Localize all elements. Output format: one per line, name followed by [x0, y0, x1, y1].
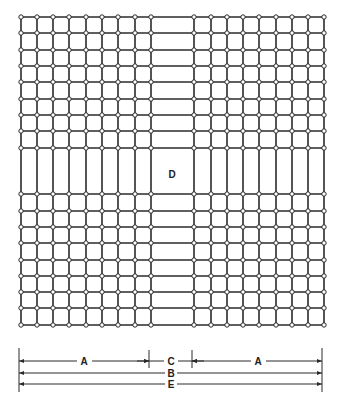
grid-node — [84, 192, 88, 196]
grid-node — [241, 306, 245, 310]
grid-node — [100, 97, 104, 101]
grid-node — [19, 48, 23, 52]
grid-node — [19, 306, 23, 310]
grid-node — [116, 129, 120, 133]
grid-node — [84, 64, 88, 68]
grid-node — [257, 258, 261, 262]
grid-node — [192, 225, 196, 229]
grid-node — [306, 146, 310, 150]
grid-node — [133, 113, 137, 117]
grid-node — [35, 225, 39, 229]
grid-node — [149, 258, 153, 262]
grid-node — [67, 290, 71, 294]
grid-node — [290, 129, 294, 133]
grid-node — [149, 80, 153, 84]
dim-label-b: B — [167, 368, 174, 379]
grid-node — [290, 97, 294, 101]
grid-node — [133, 241, 137, 245]
grid-node — [67, 192, 71, 196]
grid-node — [192, 48, 196, 52]
dim-label-e: E — [168, 379, 175, 390]
grid-node — [192, 80, 196, 84]
grid-node — [192, 241, 196, 245]
grid-node — [274, 225, 278, 229]
grid-node — [149, 129, 153, 133]
grid-node — [241, 31, 245, 35]
grid-node — [306, 290, 310, 294]
grid-node — [322, 31, 326, 35]
grid-node — [209, 323, 213, 327]
grid-node — [35, 31, 39, 35]
grid-node — [149, 113, 153, 117]
grid-node — [84, 15, 88, 19]
grid-node — [100, 31, 104, 35]
grid-node — [100, 258, 104, 262]
grid-node — [225, 146, 229, 150]
grid-node — [225, 290, 229, 294]
grid-node — [322, 290, 326, 294]
grid-node — [19, 31, 23, 35]
grid-node — [209, 209, 213, 213]
grid-node — [19, 192, 23, 196]
grid-node — [51, 146, 55, 150]
grid-node — [225, 129, 229, 133]
grid-node — [274, 48, 278, 52]
grid-node — [192, 97, 196, 101]
grid-node — [67, 323, 71, 327]
grid-node — [257, 209, 261, 213]
grid-node — [100, 15, 104, 19]
grid-node — [274, 241, 278, 245]
grid-node — [19, 146, 23, 150]
grid-node — [35, 323, 39, 327]
grid-node — [306, 64, 310, 68]
grid-node — [51, 15, 55, 19]
grid-node — [209, 97, 213, 101]
grid-node — [290, 31, 294, 35]
grid-node — [209, 290, 213, 294]
grid-node — [35, 15, 39, 19]
grid-node — [67, 258, 71, 262]
grid-node — [116, 209, 120, 213]
grid-node — [19, 241, 23, 245]
grid-node — [35, 192, 39, 196]
grid-node — [35, 306, 39, 310]
grid-node — [306, 192, 310, 196]
grid-node — [35, 48, 39, 52]
grid-node — [322, 113, 326, 117]
grid-node — [306, 80, 310, 84]
grid-node — [51, 306, 55, 310]
grid-node — [67, 113, 71, 117]
grid-node — [290, 192, 294, 196]
grid-node — [149, 209, 153, 213]
grid-node — [306, 113, 310, 117]
grid-node — [67, 31, 71, 35]
grid-node — [209, 80, 213, 84]
grid-node — [51, 80, 55, 84]
grid-node — [100, 64, 104, 68]
grid-node — [19, 80, 23, 84]
grid-node — [209, 274, 213, 278]
grid-node — [290, 209, 294, 213]
grid-node — [100, 290, 104, 294]
grid-node — [19, 64, 23, 68]
grid-node — [116, 80, 120, 84]
grid-node — [51, 274, 55, 278]
grid-node — [133, 290, 137, 294]
grid-node — [133, 80, 137, 84]
grid-node — [225, 274, 229, 278]
grid-node — [241, 323, 245, 327]
grid-node — [322, 129, 326, 133]
grid-node — [116, 290, 120, 294]
grid-node — [84, 241, 88, 245]
grid-node — [100, 146, 104, 150]
grid-node — [241, 15, 245, 19]
grid-node — [149, 241, 153, 245]
grid-diagram: D A C A B E — [0, 0, 343, 407]
grid-node — [116, 192, 120, 196]
grid-node — [116, 274, 120, 278]
grid-node — [51, 113, 55, 117]
grid-node — [192, 258, 196, 262]
grid-node — [51, 192, 55, 196]
grid-node — [290, 48, 294, 52]
grid-node — [225, 80, 229, 84]
